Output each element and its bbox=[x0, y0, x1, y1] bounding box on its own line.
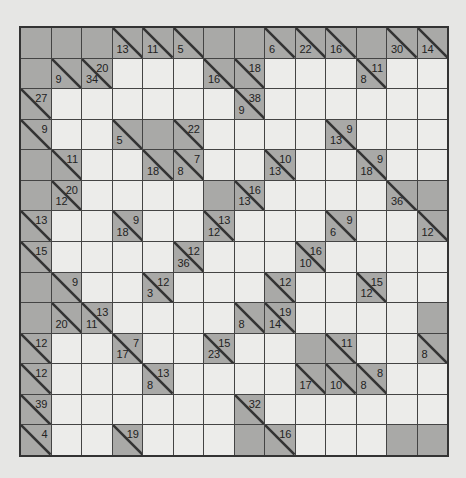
entry-cell[interactable] bbox=[418, 59, 448, 89]
entry-cell[interactable] bbox=[418, 242, 448, 272]
entry-cell[interactable] bbox=[143, 89, 173, 119]
entry-cell[interactable] bbox=[357, 181, 387, 211]
entry-cell[interactable] bbox=[265, 211, 295, 241]
entry-cell[interactable] bbox=[357, 242, 387, 272]
entry-cell[interactable] bbox=[82, 211, 112, 241]
entry-cell[interactable] bbox=[204, 425, 234, 455]
entry-cell[interactable] bbox=[418, 150, 448, 180]
entry-cell[interactable] bbox=[235, 364, 265, 394]
entry-cell[interactable] bbox=[357, 334, 387, 364]
entry-cell[interactable] bbox=[326, 150, 356, 180]
entry-cell[interactable] bbox=[174, 181, 204, 211]
entry-cell[interactable] bbox=[52, 334, 82, 364]
entry-cell[interactable] bbox=[52, 364, 82, 394]
entry-cell[interactable] bbox=[143, 211, 173, 241]
entry-cell[interactable] bbox=[143, 395, 173, 425]
entry-cell[interactable] bbox=[82, 89, 112, 119]
entry-cell[interactable] bbox=[174, 425, 204, 455]
entry-cell[interactable] bbox=[235, 211, 265, 241]
entry-cell[interactable] bbox=[82, 334, 112, 364]
entry-cell[interactable] bbox=[326, 89, 356, 119]
entry-cell[interactable] bbox=[174, 59, 204, 89]
entry-cell[interactable] bbox=[174, 395, 204, 425]
entry-cell[interactable] bbox=[52, 395, 82, 425]
entry-cell[interactable] bbox=[387, 273, 417, 303]
entry-cell[interactable] bbox=[387, 303, 417, 333]
entry-cell[interactable] bbox=[387, 395, 417, 425]
entry-cell[interactable] bbox=[174, 364, 204, 394]
entry-cell[interactable] bbox=[326, 242, 356, 272]
entry-cell[interactable] bbox=[418, 364, 448, 394]
entry-cell[interactable] bbox=[296, 395, 326, 425]
entry-cell[interactable] bbox=[113, 364, 143, 394]
entry-cell[interactable] bbox=[387, 364, 417, 394]
entry-cell[interactable] bbox=[296, 89, 326, 119]
entry-cell[interactable] bbox=[174, 211, 204, 241]
entry-cell[interactable] bbox=[113, 59, 143, 89]
entry-cell[interactable] bbox=[265, 59, 295, 89]
entry-cell[interactable] bbox=[82, 150, 112, 180]
entry-cell[interactable] bbox=[174, 303, 204, 333]
entry-cell[interactable] bbox=[387, 242, 417, 272]
entry-cell[interactable] bbox=[204, 150, 234, 180]
entry-cell[interactable] bbox=[143, 59, 173, 89]
entry-cell[interactable] bbox=[326, 303, 356, 333]
entry-cell[interactable] bbox=[52, 425, 82, 455]
entry-cell[interactable] bbox=[82, 242, 112, 272]
entry-cell[interactable] bbox=[82, 395, 112, 425]
entry-cell[interactable] bbox=[387, 59, 417, 89]
entry-cell[interactable] bbox=[265, 334, 295, 364]
entry-cell[interactable] bbox=[326, 59, 356, 89]
entry-cell[interactable] bbox=[113, 181, 143, 211]
entry-cell[interactable] bbox=[296, 303, 326, 333]
entry-cell[interactable] bbox=[296, 181, 326, 211]
entry-cell[interactable] bbox=[143, 334, 173, 364]
entry-cell[interactable] bbox=[326, 181, 356, 211]
entry-cell[interactable] bbox=[52, 211, 82, 241]
entry-cell[interactable] bbox=[204, 395, 234, 425]
entry-cell[interactable] bbox=[52, 120, 82, 150]
entry-cell[interactable] bbox=[387, 150, 417, 180]
entry-cell[interactable] bbox=[235, 334, 265, 364]
entry-cell[interactable] bbox=[174, 334, 204, 364]
entry-cell[interactable] bbox=[265, 120, 295, 150]
entry-cell[interactable] bbox=[143, 242, 173, 272]
entry-cell[interactable] bbox=[357, 395, 387, 425]
entry-cell[interactable] bbox=[82, 273, 112, 303]
entry-cell[interactable] bbox=[235, 120, 265, 150]
entry-cell[interactable] bbox=[418, 395, 448, 425]
entry-cell[interactable] bbox=[113, 89, 143, 119]
entry-cell[interactable] bbox=[204, 273, 234, 303]
entry-cell[interactable] bbox=[418, 89, 448, 119]
entry-cell[interactable] bbox=[265, 364, 295, 394]
entry-cell[interactable] bbox=[235, 273, 265, 303]
entry-cell[interactable] bbox=[204, 120, 234, 150]
entry-cell[interactable] bbox=[265, 395, 295, 425]
entry-cell[interactable] bbox=[326, 273, 356, 303]
entry-cell[interactable] bbox=[326, 395, 356, 425]
entry-cell[interactable] bbox=[296, 120, 326, 150]
entry-cell[interactable] bbox=[357, 120, 387, 150]
entry-cell[interactable] bbox=[82, 364, 112, 394]
entry-cell[interactable] bbox=[113, 303, 143, 333]
entry-cell[interactable] bbox=[296, 273, 326, 303]
entry-cell[interactable] bbox=[204, 242, 234, 272]
entry-cell[interactable] bbox=[143, 425, 173, 455]
entry-cell[interactable] bbox=[296, 211, 326, 241]
entry-cell[interactable] bbox=[113, 395, 143, 425]
entry-cell[interactable] bbox=[82, 181, 112, 211]
entry-cell[interactable] bbox=[113, 273, 143, 303]
entry-cell[interactable] bbox=[174, 89, 204, 119]
entry-cell[interactable] bbox=[357, 425, 387, 455]
entry-cell[interactable] bbox=[265, 181, 295, 211]
entry-cell[interactable] bbox=[143, 181, 173, 211]
entry-cell[interactable] bbox=[52, 89, 82, 119]
entry-cell[interactable] bbox=[387, 120, 417, 150]
entry-cell[interactable] bbox=[296, 59, 326, 89]
entry-cell[interactable] bbox=[113, 150, 143, 180]
entry-cell[interactable] bbox=[204, 364, 234, 394]
entry-cell[interactable] bbox=[82, 120, 112, 150]
entry-cell[interactable] bbox=[82, 425, 112, 455]
entry-cell[interactable] bbox=[235, 150, 265, 180]
entry-cell[interactable] bbox=[235, 242, 265, 272]
